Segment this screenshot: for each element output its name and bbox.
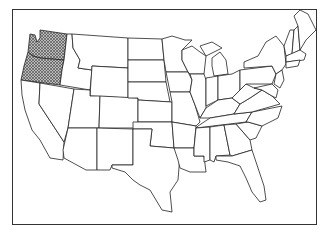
state-wyoming[interactable] [90,66,128,98]
state-washington[interactable] [28,30,67,60]
state-north-dakota[interactable] [128,38,164,60]
state-colorado[interactable] [99,96,138,128]
state-arizona[interactable] [63,128,97,170]
state-new-mexico[interactable] [97,128,133,170]
state-arkansas[interactable] [172,122,196,148]
state-south-dakota[interactable] [128,60,166,82]
state-iowa[interactable] [166,72,192,92]
state-kansas[interactable] [138,100,172,122]
state-montana[interactable] [72,34,128,70]
us-map [0,0,328,232]
state-florida[interactable] [216,150,266,202]
